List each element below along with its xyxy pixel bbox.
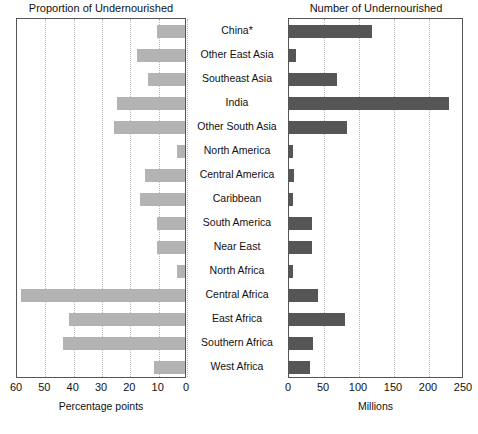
category-label: Other East Asia [186,48,288,61]
right-x-tick-label: 50 [308,381,338,393]
right-panel-plot-area [288,18,463,378]
category-label: China* [186,24,288,37]
bar-number [289,73,337,86]
gridline [359,19,360,377]
category-label: Other South Asia [186,120,288,133]
right-panel-title: Number of Undernourished [288,2,464,14]
bar-proportion [114,121,185,134]
bar-proportion [117,97,185,110]
left-x-tick-label: 60 [1,381,31,393]
category-label: India [186,96,288,109]
bar-proportion [177,265,186,278]
category-label: Central America [186,168,288,181]
right-x-tick-label: 200 [413,381,443,393]
category-label: West Africa [186,360,288,373]
category-label: Southeast Asia [186,72,288,85]
left-x-tick-label: 10 [143,381,173,393]
bar-number [289,289,318,302]
category-label: Caribbean [186,192,288,205]
category-label: Southern Africa [186,336,288,349]
left-x-tick-label: 40 [58,381,88,393]
bar-proportion [157,25,185,38]
bar-number [289,337,313,350]
bar-number [289,25,372,38]
gridline [394,19,395,377]
bar-proportion [21,289,185,302]
left-x-tick-label: 50 [29,381,59,393]
chart-figure: Proportion of Undernourished Number of U… [0,0,478,434]
left-x-axis-label: Percentage points [16,400,186,412]
bar-proportion [140,193,185,206]
right-x-tick-label: 250 [448,381,478,393]
bar-number [289,145,293,158]
bar-proportion [69,313,185,326]
bar-proportion [148,73,185,86]
category-label: Central Africa [186,288,288,301]
bar-number [289,97,449,110]
gridline [45,19,46,377]
category-label: South America [186,216,288,229]
left-x-tick-label: 0 [171,381,201,393]
right-x-axis-label: Millions [288,400,463,412]
bar-proportion [137,49,185,62]
bar-number [289,265,293,278]
bar-number [289,241,312,254]
bar-number [289,121,347,134]
bar-proportion [145,169,185,182]
right-x-tick-label: 150 [378,381,408,393]
bar-proportion [63,337,185,350]
category-label: Near East [186,240,288,253]
left-x-tick-label: 30 [86,381,116,393]
bar-number [289,361,310,374]
category-label: East Africa [186,312,288,325]
bar-number [289,217,312,230]
bar-proportion [157,217,185,230]
category-label: North America [186,144,288,157]
gridline [429,19,430,377]
bar-proportion [177,145,186,158]
bar-number [289,193,293,206]
category-label: North Africa [186,264,288,277]
right-x-tick-label: 100 [343,381,373,393]
left-panel-title: Proportion of Undernourished [16,2,186,14]
left-x-tick-label: 20 [114,381,144,393]
bar-number [289,49,296,62]
bar-proportion [154,361,185,374]
left-panel-plot-area [16,18,186,378]
bar-number [289,313,345,326]
right-x-tick-label: 0 [273,381,303,393]
bar-proportion [157,241,185,254]
bar-number [289,169,294,182]
